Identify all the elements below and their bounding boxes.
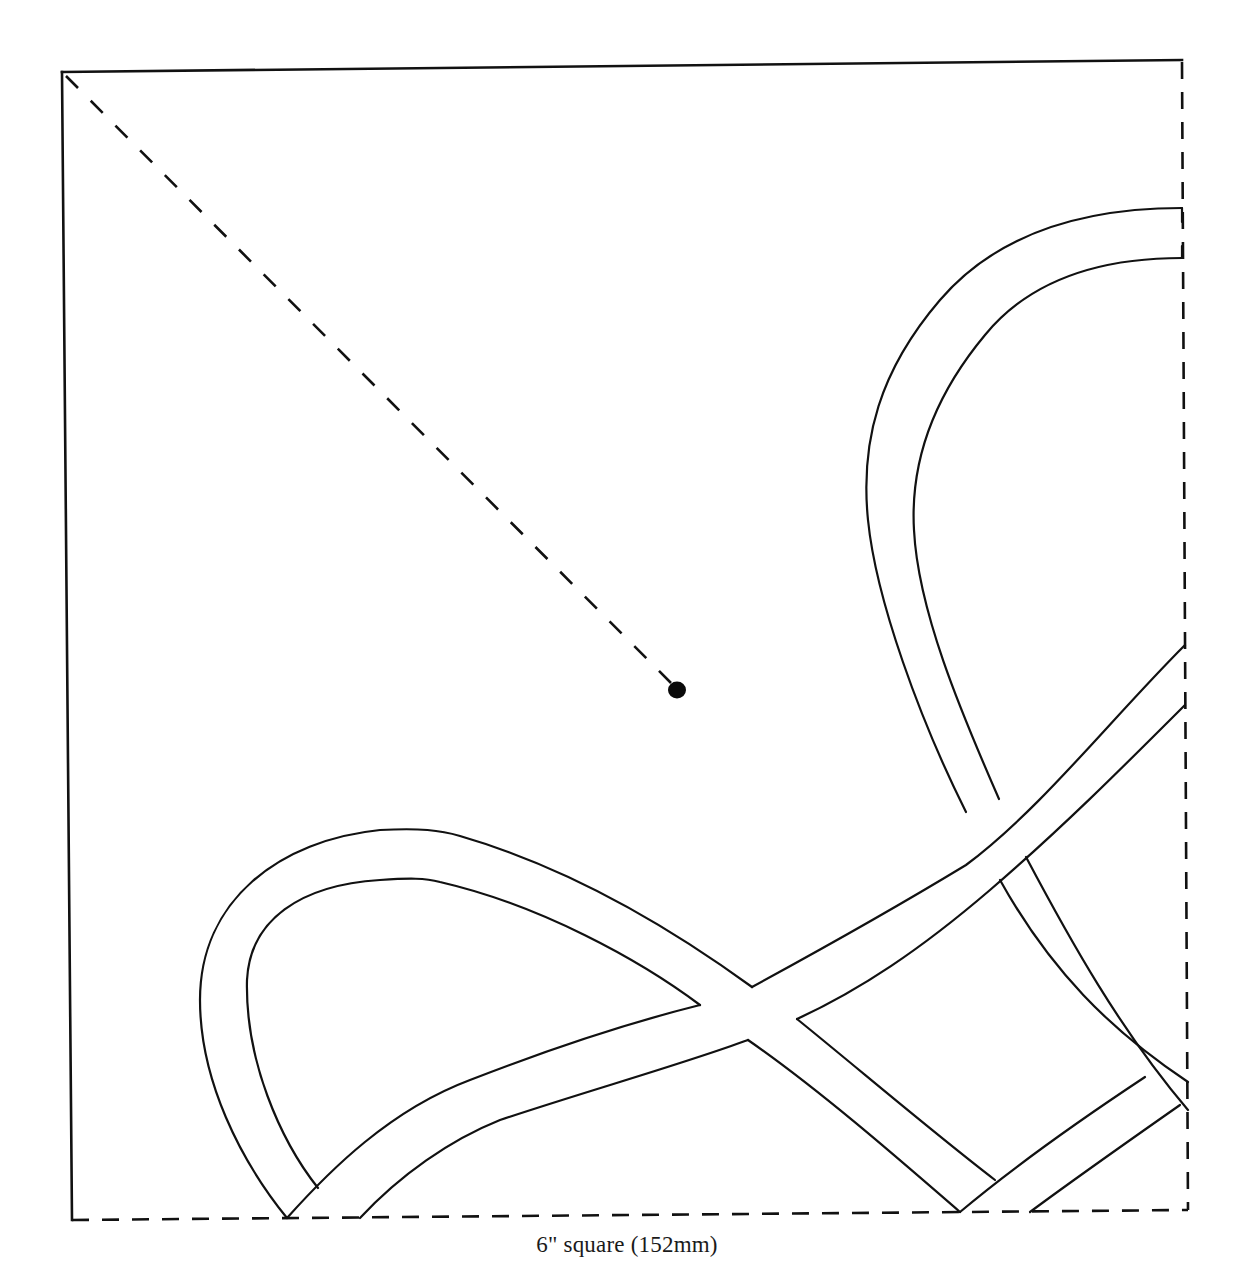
block-size-caption: 6" square (152mm) <box>0 1232 1254 1258</box>
square-top-edge <box>62 60 1182 72</box>
band-rising-lower-edge-mid <box>797 705 1185 1019</box>
band-rising-lower-edge <box>360 1040 748 1218</box>
square-left-edge <box>62 72 72 1220</box>
band-left-loop-inner-edge <box>247 879 700 1188</box>
square-bottom-edge-dashed <box>72 1210 1188 1220</box>
band-lower-right-lower-edge <box>1030 1105 1180 1212</box>
square-right-edge-dashed <box>1182 62 1188 1210</box>
band-rising-upper-edge <box>287 1005 700 1218</box>
center-dot <box>668 682 686 699</box>
diagonal-guide-line <box>66 76 672 684</box>
band-left-loop <box>200 829 995 1218</box>
outer-square <box>62 60 1188 1220</box>
band-rising-diagonal <box>287 645 1185 1218</box>
band-right-loop-inner-edge <box>914 258 1182 799</box>
band-right-loop <box>866 208 1188 1110</box>
band-lower-right <box>960 1077 1180 1212</box>
band-right-loop-outer-edge-lower <box>1000 880 1188 1082</box>
band-left-loop-outer-edge <box>200 829 752 1218</box>
band-right-loop-inner-edge-lower <box>1026 857 1188 1110</box>
band-rising-upper-edge-mid <box>752 645 1185 987</box>
pattern-diagram <box>0 0 1254 1288</box>
band-lower-right-upper-edge <box>960 1077 1145 1212</box>
